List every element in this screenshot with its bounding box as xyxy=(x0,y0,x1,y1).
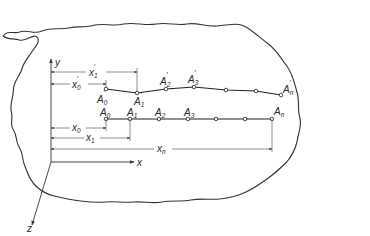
label-An: An xyxy=(273,106,285,118)
label-An-prime: An′ xyxy=(282,79,294,96)
label-A0: A0 xyxy=(99,107,111,119)
y-axis-label: y xyxy=(54,57,61,68)
dimension-x1-prime: x1′ xyxy=(51,63,137,93)
dimension-x0: x0 xyxy=(51,119,106,134)
label-A2: A2 xyxy=(154,107,166,119)
label-A3-prime: A3′ xyxy=(187,69,199,86)
label-A1: A1 xyxy=(126,107,138,119)
dimension-x0-prime: x0′ xyxy=(51,75,106,91)
label-A0-prime: A0′ xyxy=(96,89,108,106)
x-axis-label: x xyxy=(136,157,143,168)
displaced-polyline: A0′ A1′ A2′ A3′ An′ xyxy=(96,69,294,108)
original-line: A0 A1 A2 A3 An xyxy=(99,106,285,121)
z-axis-label: z xyxy=(26,223,32,234)
dimension-x1: x1 xyxy=(51,119,130,144)
label-A2-prime: A2′ xyxy=(159,71,171,88)
body-outline xyxy=(3,23,300,202)
label-A3: A3 xyxy=(183,107,195,119)
deformation-diagram: y x z x1′ x0′ A0′ A1′ A2′ A3′ An′ xyxy=(0,0,370,236)
